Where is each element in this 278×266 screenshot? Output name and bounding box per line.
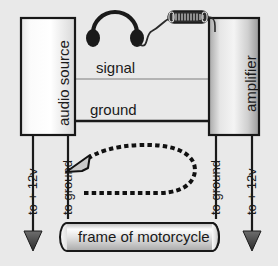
signal-label: signal	[96, 60, 135, 75]
amplifier-label: amplifier	[243, 55, 258, 112]
frame-of-motorcycle-label: frame of motorcycle	[78, 229, 210, 244]
left-ground-label: to ground	[61, 160, 74, 215]
ground-label: ground	[90, 102, 137, 117]
right-power-label: to + 12v	[245, 168, 258, 215]
audio-source-label: audio source	[56, 40, 71, 126]
wiring-diagram: audio source amplifier signal ground to …	[0, 0, 278, 266]
left-power-label: to + 12v	[26, 168, 39, 215]
right-ground-label: to ground	[209, 160, 222, 215]
diagram-canvas	[0, 0, 278, 266]
